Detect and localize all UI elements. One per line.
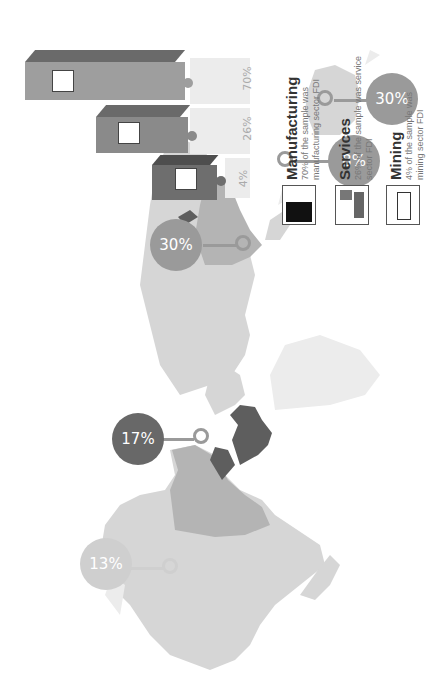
callout-stem-south-east-asia — [294, 160, 329, 163]
value-australia: 30% — [375, 90, 408, 108]
callout-stem-north-america — [130, 567, 164, 570]
map-region-north-america — [100, 445, 340, 670]
bubble-asia: 30% — [150, 219, 202, 271]
marker-europe[interactable] — [193, 428, 209, 444]
marker-australia[interactable] — [317, 90, 333, 106]
marker-north-america[interactable] — [162, 558, 178, 574]
callout-stem-europe — [160, 438, 194, 441]
map-region-south-east-asia — [265, 190, 292, 240]
value-south-east-asia: 8% — [342, 152, 366, 170]
marker-south-east-asia[interactable] — [277, 151, 293, 167]
bubble-australia: 30% — [366, 73, 418, 125]
marker-asia[interactable] — [235, 235, 251, 251]
callout-stem-australia — [334, 99, 369, 102]
value-north-america: 13% — [89, 555, 122, 573]
map-region-africa — [270, 335, 380, 410]
infographic-canvas: 13% 17% 30% 8% 30% — [0, 0, 440, 695]
bubble-north-america: 13% — [80, 538, 132, 590]
value-asia: 30% — [159, 236, 192, 254]
callout-stem-asia — [203, 244, 237, 247]
map-region-asia — [140, 140, 262, 395]
bubble-south-east-asia: 8% — [328, 135, 380, 187]
bubble-europe: 17% — [112, 413, 164, 465]
value-europe: 17% — [121, 430, 154, 448]
